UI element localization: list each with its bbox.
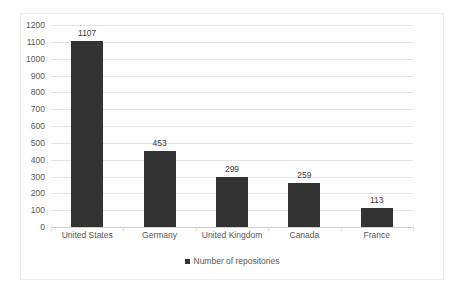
gridline [51, 160, 413, 161]
y-axis-tick-label: 700 [31, 105, 45, 114]
bar-value-label: 259 [297, 171, 311, 180]
bar[interactable] [71, 41, 103, 227]
y-axis-tick-label: 500 [31, 139, 45, 148]
x-axis-tick [51, 227, 52, 231]
x-axis-tick [268, 227, 269, 231]
bar[interactable] [216, 177, 248, 227]
x-axis-category-label: Germany [142, 231, 177, 240]
gridline [51, 143, 413, 144]
y-axis-tick-label: 1000 [26, 54, 45, 63]
bar[interactable] [144, 151, 176, 227]
bar-value-label: 1107 [78, 29, 96, 38]
chart-legend: Number of repositories [21, 257, 443, 266]
y-axis-tick-label: 600 [31, 122, 45, 131]
x-axis-tick [413, 227, 414, 231]
gridline [51, 92, 413, 93]
legend-label: Number of repositories [194, 257, 280, 266]
gridline [51, 25, 413, 26]
bar[interactable] [288, 183, 320, 227]
x-axis-tick [123, 227, 124, 231]
x-axis-tick [196, 227, 197, 231]
chart-container: 0100200300400500600700800900100011001200… [20, 13, 444, 280]
plot-area: 0100200300400500600700800900100011001200… [51, 25, 413, 227]
x-axis-category-label: United Kingdom [202, 231, 262, 240]
y-axis-tick-label: 200 [31, 189, 45, 198]
x-axis-category-label: France [364, 231, 390, 240]
y-axis-tick-label: 800 [31, 88, 45, 97]
gridline [51, 42, 413, 43]
gridline [51, 59, 413, 60]
y-axis-tick-label: 100 [31, 206, 45, 215]
gridline [51, 109, 413, 110]
bar-value-label: 453 [153, 139, 167, 148]
legend-swatch-icon [185, 259, 190, 264]
y-axis-tick-label: 0 [40, 223, 45, 232]
x-axis-tick [341, 227, 342, 231]
y-axis-tick-label: 1200 [26, 21, 45, 30]
y-axis-tick-label: 1100 [27, 38, 45, 47]
y-axis-tick-label: 400 [31, 155, 45, 164]
bar-value-label: 113 [370, 196, 384, 205]
x-axis-category-label: Canada [290, 231, 320, 240]
gridline [51, 76, 413, 77]
y-axis-tick-label: 300 [31, 172, 45, 181]
x-axis-category-label: United States [62, 231, 113, 240]
gridline [51, 126, 413, 127]
bar[interactable] [361, 208, 393, 227]
bar-value-label: 299 [225, 165, 239, 174]
y-axis-tick-label: 900 [31, 71, 45, 80]
axis-baseline [51, 227, 413, 228]
